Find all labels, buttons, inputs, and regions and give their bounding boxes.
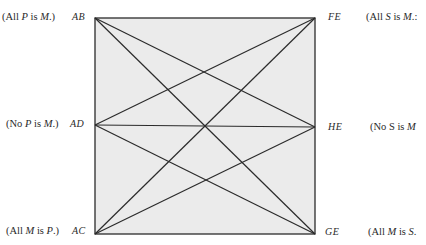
syllogism-diagram (0, 0, 426, 245)
node-label-AC: AC (72, 225, 86, 236)
prop-close: .) (49, 11, 55, 22)
prop-predicate: M (40, 11, 49, 22)
proposition-AC: (All M is P.) (6, 225, 59, 236)
node-label-FE: FE (328, 11, 341, 22)
proposition-AD: (No P is M.) (6, 118, 59, 129)
proposition-HE: (No S is M (370, 121, 416, 132)
prop-predicate: M (407, 121, 416, 132)
prop-copula: is (34, 225, 46, 236)
prop-subject: M (388, 226, 397, 237)
node-label-GE: GE (325, 226, 339, 237)
prop-close: .) (53, 225, 59, 236)
prop-predicate: M (403, 11, 412, 22)
proposition-FE: (All S is M.: (366, 11, 417, 22)
node-label-AB: AB (72, 11, 85, 22)
prop-open: (All (6, 225, 26, 236)
prop-close: .: (412, 11, 418, 22)
prop-copula: is (31, 118, 43, 129)
prop-copula: is (28, 11, 40, 22)
prop-close: .) (52, 118, 58, 129)
proposition-AB: (All P is M.) (2, 11, 55, 22)
prop-copula: is (395, 121, 407, 132)
prop-open: (All (366, 11, 386, 22)
node-label-AD: AD (70, 118, 84, 129)
prop-copula: is (396, 226, 408, 237)
prop-open: (No (6, 118, 25, 129)
prop-open: (All (2, 11, 22, 22)
prop-subject: M (26, 225, 35, 236)
prop-open: (No (370, 121, 389, 132)
prop-copula: is (391, 11, 403, 22)
node-label-HE: HE (328, 121, 342, 132)
prop-open: (All (368, 226, 388, 237)
proposition-GE: (All M is S. (368, 226, 416, 237)
prop-close: . (414, 226, 417, 237)
